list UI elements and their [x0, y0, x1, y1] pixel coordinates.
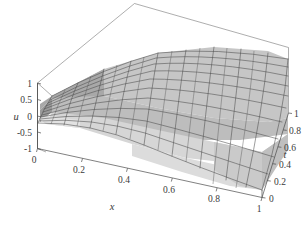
- t-tick-label: 0.2: [274, 177, 286, 187]
- t-tick-label: 0.4: [279, 160, 291, 170]
- x-tick-label: 0: [32, 155, 37, 165]
- plot-canvas: 1 0.5 0 -0.5 -1 0 0.2 0.4 0.6 0.8 1 0 0.…: [0, 0, 305, 240]
- u-tick-label: -0.5: [17, 128, 32, 138]
- surface-plot-figure: 1 0.5 0 -0.5 -1 0 0.2 0.4 0.6 0.8 1 0 0.…: [0, 0, 305, 240]
- u-axis-tick-labels: 1 0.5 0 -0.5 -1: [17, 79, 32, 155]
- u-tick-label: 0: [27, 112, 32, 122]
- u-axis-title: u: [13, 111, 18, 122]
- t-tick-label: 1: [294, 109, 299, 119]
- t-tick-label: 0: [269, 194, 274, 204]
- u-tick-label: 1: [27, 79, 32, 89]
- x-tick-label: 0.8: [208, 194, 220, 204]
- t-tick-label: 0.8: [289, 126, 301, 136]
- x-tick-label: 0.4: [118, 175, 130, 185]
- x-tick-label: 1: [257, 204, 262, 214]
- x-tick-label: 0.2: [73, 165, 85, 175]
- x-axis-title: x: [109, 201, 115, 212]
- u-tick-label: 0.5: [20, 95, 32, 105]
- x-tick-label: 0.6: [163, 185, 175, 195]
- u-tick-label: -1: [24, 144, 32, 154]
